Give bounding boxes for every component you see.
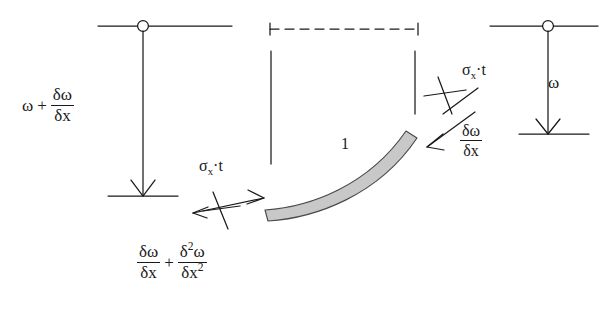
omega-symbol: ω [22,97,33,114]
slope-fraction: δω δx [51,86,74,126]
left-force-cross-stroke-a [213,192,228,229]
axial-stress-right-label: σx·t [462,62,486,78]
diagram-vector-layer [0,0,602,317]
plus-operator: + [164,254,174,271]
left-force-arrowhead-right [247,190,264,204]
sigma-symbol: σ [462,61,471,78]
thickness-symbol: t [218,157,222,174]
left-support-node-circle [138,21,149,32]
plus-operator: + [37,97,47,114]
axial-stress-left-label: σx·t [199,158,223,174]
denominator-exponent: 2 [198,262,204,275]
omega-symbol: ω [194,242,205,261]
slope-fraction: δω δx [460,122,482,160]
fraction-numerator: δω [51,86,74,106]
omega-symbol: ω [548,73,559,92]
denominator-base: δx [181,263,198,282]
left-distributed-load-label: ω + δω δx [22,86,74,126]
thickness-symbol: t [481,61,485,78]
slope-fraction: δω δx [137,243,160,283]
fraction-denominator: δx [51,106,74,125]
right-distributed-load-label: ω [548,74,559,91]
fraction-denominator: δx2 [178,263,207,282]
beam-diagram: ω + δω δx ω σx·t σx·t δω δx δω δx [0,0,602,317]
fraction-numerator: δω [460,122,482,141]
fraction-numerator: δω [137,243,160,263]
right-force-cross-stroke-c [443,88,478,114]
left-force-arrowhead-left [193,207,208,218]
fraction-denominator: δx [460,141,482,159]
curvature-fraction: δ2ω δx2 [178,243,207,283]
slope-right-label: δω δx [460,122,482,160]
element-number-label: 1 [341,136,349,152]
fraction-numerator: δ2ω [178,243,207,263]
delta-symbol: δ [180,242,188,261]
slope-plus-curvature-label: δω δx + δ2ω δx2 [137,243,207,283]
sigma-symbol: σ [199,157,208,174]
right-support-node-circle [543,21,554,32]
fraction-denominator: δx [137,263,160,282]
